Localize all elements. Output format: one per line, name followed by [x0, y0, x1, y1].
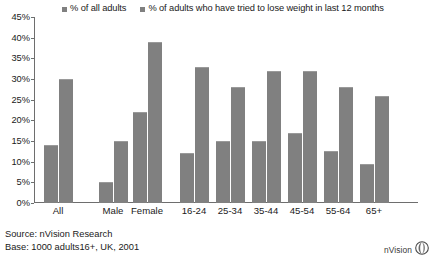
bar[interactable]: [288, 133, 302, 203]
chart-container: % of all adults% of adults who have trie…: [0, 0, 438, 266]
y-tick-mark: [31, 141, 34, 142]
y-axis-labels: 45%40%35%30%25%20%15%10%5%0%: [0, 17, 30, 203]
bar[interactable]: [44, 145, 58, 203]
legend-label: % of adults who have tried to lose weigh…: [148, 3, 383, 13]
y-axis-line: [34, 17, 35, 203]
bar[interactable]: [339, 87, 353, 203]
bar[interactable]: [133, 112, 147, 203]
y-tick-label: 30%: [11, 74, 30, 84]
x-tick-label: 45-54: [290, 205, 315, 216]
y-tick-mark: [31, 120, 34, 121]
x-tick-label: 55-64: [326, 205, 351, 216]
plot-area: [34, 17, 418, 203]
legend-entry[interactable]: % of all adults: [62, 3, 126, 13]
bar[interactable]: [252, 141, 266, 203]
y-tick-mark: [31, 182, 34, 183]
x-axis-labels: AllMaleFemale16-2425-3435-4445-5455-6465…: [34, 205, 418, 219]
legend-swatch-icon: [62, 7, 67, 12]
y-tick-mark: [31, 203, 34, 204]
x-tick-label: 16-24: [182, 205, 207, 216]
y-tick-mark: [31, 17, 34, 18]
y-tick-mark: [31, 58, 34, 59]
bar[interactable]: [195, 67, 209, 203]
y-tick-label: 40%: [11, 33, 30, 43]
source-line: Source: nVision Research: [5, 228, 139, 241]
x-tick-label: Male: [103, 205, 124, 216]
x-tick-label: 35-44: [254, 205, 279, 216]
x-tick-label: All: [53, 205, 64, 216]
y-tick-label: 15%: [11, 136, 30, 146]
bar[interactable]: [267, 71, 281, 203]
bar[interactable]: [231, 87, 245, 203]
y-tick-label: 0%: [17, 198, 30, 208]
y-tick-label: 20%: [11, 115, 30, 125]
y-tick-label: 5%: [17, 177, 30, 187]
x-tick-label: 65+: [366, 205, 382, 216]
bar[interactable]: [114, 141, 128, 203]
x-tick-label: 25-34: [218, 205, 243, 216]
x-tick-label: Female: [131, 205, 163, 216]
y-tick-label: 10%: [11, 157, 30, 167]
footer-notes: Source: nVision Research Base: 1000 adul…: [5, 228, 139, 253]
bar[interactable]: [375, 96, 389, 203]
bar[interactable]: [180, 153, 194, 203]
bar[interactable]: [303, 71, 317, 203]
bar[interactable]: [59, 79, 73, 203]
y-tick-label: 35%: [11, 53, 30, 63]
y-tick-label: 25%: [11, 95, 30, 105]
legend-entry[interactable]: % of adults who have tried to lose weigh…: [140, 3, 383, 13]
brand-logo: nVision: [384, 242, 430, 258]
nvision-leaf-icon: [414, 240, 430, 256]
bar[interactable]: [324, 151, 338, 203]
y-tick-mark: [31, 100, 34, 101]
y-tick-mark: [31, 79, 34, 80]
brand-name: nVision: [384, 245, 412, 255]
bar[interactable]: [216, 141, 230, 203]
legend-label: % of all adults: [70, 3, 126, 13]
base-line: Base: 1000 adults16+, UK, 2001: [5, 241, 139, 254]
bar[interactable]: [148, 42, 162, 203]
bar[interactable]: [360, 164, 374, 203]
legend-swatch-icon: [140, 7, 145, 12]
y-tick-mark: [31, 38, 34, 39]
chart-legend: % of all adults% of adults who have trie…: [62, 1, 384, 15]
y-tick-label: 45%: [11, 12, 30, 22]
bar[interactable]: [99, 182, 113, 203]
y-tick-mark: [31, 162, 34, 163]
